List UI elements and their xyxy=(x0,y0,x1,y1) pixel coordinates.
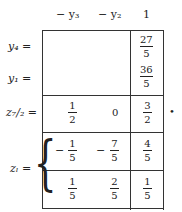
trailing-dot: • xyxy=(169,106,175,117)
zlb-rhs: 15 xyxy=(143,176,152,201)
row-divider-3 xyxy=(42,170,164,171)
z72-c2: 0 xyxy=(112,107,118,118)
label-y1: y₁ = xyxy=(8,72,31,85)
zla-rhs: 45 xyxy=(143,138,152,163)
top-border xyxy=(42,30,164,31)
col-header-1: 1 xyxy=(143,8,150,21)
zla-c1-sign: − xyxy=(55,144,64,157)
label-y4: y₄ = xyxy=(8,40,31,53)
zla-c2: 75 xyxy=(110,138,119,163)
row-divider-1 xyxy=(42,95,164,96)
zla-c1: 15 xyxy=(68,138,77,163)
y1-rhs: 365 xyxy=(140,64,153,89)
rhs-divider xyxy=(130,30,131,210)
right-border xyxy=(163,30,164,210)
zla-c2-sign: − xyxy=(96,144,105,157)
col-header-y2: − y₂ xyxy=(98,8,121,21)
col-header-y3: − y₃ xyxy=(56,8,79,21)
bottom-border xyxy=(42,208,164,209)
label-z7-2: z₇/₂ = xyxy=(6,106,37,119)
row-divider-2 xyxy=(42,132,164,133)
zlb-c1: 15 xyxy=(68,176,77,201)
z72-rhs: 32 xyxy=(143,100,152,125)
y4-rhs: 275 xyxy=(140,34,153,59)
zlb-c2: 25 xyxy=(110,176,119,201)
brace-icon: { xyxy=(34,132,57,192)
label-zl: zₗ = xyxy=(10,162,31,175)
z72-c1: 12 xyxy=(68,100,77,125)
